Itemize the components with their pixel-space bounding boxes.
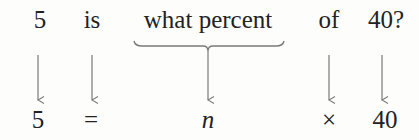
equation-term-times: × [322,107,336,132]
equation-term-5: 5 [32,107,45,132]
equation-term-n: n [202,107,215,132]
equation-term-40: 40 [373,107,398,132]
curly-brace-icon [134,41,284,51]
equation-term-equals: = [84,107,98,132]
